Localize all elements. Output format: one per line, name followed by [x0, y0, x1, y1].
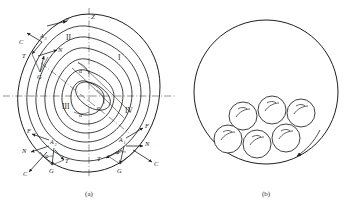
ball-lower-middle — [243, 130, 271, 158]
force-c-label-upper-left: C — [19, 38, 24, 45]
force-g-label-lower-right: G — [117, 167, 122, 174]
svg-text:2: 2 — [55, 142, 57, 147]
svg-text:A: A — [49, 139, 54, 145]
quadrant-two-label: II — [66, 33, 71, 42]
force-t-label-lower-left: T — [65, 157, 69, 164]
force-t-label-lower-right: T — [97, 155, 101, 162]
angle-alpha-label-lower-right: α — [116, 149, 119, 155]
point-a1-label: A 1 — [118, 137, 126, 145]
spiral-trajectories — [27, 26, 150, 161]
ball-lower-right — [272, 124, 300, 152]
quadrant-four-label: IV — [125, 106, 133, 115]
force-n-label-lower-right: N — [144, 140, 150, 147]
ball-lower-left — [214, 125, 242, 153]
force-c-label-lower-left: C — [23, 170, 28, 177]
panel-a-caption: (a) — [85, 190, 93, 198]
svg-text:3: 3 — [45, 36, 47, 41]
force-c-label-lower-right: C — [154, 160, 159, 167]
z-axis-label: Z — [91, 13, 95, 21]
force-t-label-upper-left: T — [22, 52, 26, 59]
ball-cluster — [214, 96, 315, 158]
quadrant-one-label: I — [118, 53, 121, 62]
force-n-label-upper-left: N — [57, 46, 63, 53]
ball-upper-right — [287, 99, 315, 127]
angle-alpha-upper-label: α — [79, 68, 83, 74]
technical-figure: v Z I II III IV α α α A 3 A 2 A 1 C T N … — [0, 0, 351, 216]
svg-text:1: 1 — [124, 140, 126, 145]
force-t-vector-lower-right — [106, 150, 122, 158]
force-g-label-lower-left: G — [49, 167, 54, 174]
quadrant-three-label: III — [62, 102, 70, 111]
force-parallelogram-upper-left — [32, 54, 48, 72]
ball-upper-middle — [258, 96, 286, 124]
force-t-vector-lower-left — [55, 150, 64, 160]
force-parallelogram-lower-right — [108, 150, 136, 164]
panel-a: v Z I II III IV α α α A 3 A 2 A 1 C T N … — [3, 8, 176, 198]
force-f-label-lower-left: F — [26, 127, 32, 134]
velocity-label: v — [66, 15, 69, 22]
angle-alpha-label-lower-left: α — [45, 153, 48, 159]
velocity-vector — [47, 21, 67, 26]
force-c-vector-lower-right — [133, 150, 152, 162]
force-g-label-upper-left: G — [37, 73, 42, 80]
svg-text:A: A — [118, 137, 123, 143]
panel-b-caption: (b) — [262, 190, 271, 198]
svg-text:A: A — [39, 33, 44, 39]
force-f-label-lower-right: F — [144, 122, 150, 129]
panel-b: (b) — [194, 20, 338, 198]
force-n-label-lower-left: N — [21, 147, 27, 154]
